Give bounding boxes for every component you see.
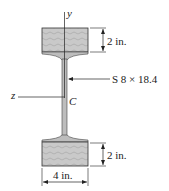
bottom-wood-block: [42, 142, 88, 166]
centroid-label: C: [69, 96, 76, 107]
width-label: 4 in.: [53, 170, 73, 181]
z-axis-label: z: [11, 90, 15, 101]
bottom-height-label: 2 in.: [107, 150, 127, 161]
composite-beam-diagram: [0, 0, 169, 191]
y-axis-label: y: [67, 8, 72, 19]
top-wood-block: [42, 28, 88, 52]
bottom-flange: [42, 135, 88, 142]
top-height-label: 2 in.: [107, 36, 127, 47]
section-label: S 8 × 18.4: [112, 74, 157, 85]
